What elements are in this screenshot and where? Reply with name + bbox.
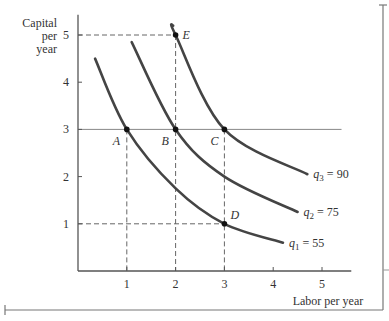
point-label-B: B: [162, 134, 170, 148]
point-label-C: C: [210, 134, 219, 148]
point-E: [173, 32, 179, 38]
labels: q1 = 55q2 = 75q3 = 90ABCDE: [112, 28, 349, 252]
x-tick-label: 2: [173, 277, 179, 291]
x-tick-label: 3: [221, 277, 227, 291]
isoquant-q2: [132, 42, 298, 212]
y-tick-label: 1: [63, 217, 69, 231]
y-axis-label: Capital: [22, 16, 57, 30]
isoquant-label-q1: q1 = 55: [289, 236, 324, 252]
y-axis-label: per: [42, 29, 57, 43]
y-tick-label: 3: [63, 122, 69, 136]
point-A: [124, 127, 130, 133]
y-tick-label: 2: [63, 170, 69, 184]
point-label-A: A: [112, 134, 121, 148]
x-axis-label: Labor per year: [293, 294, 364, 308]
point-B: [173, 127, 179, 133]
y-axis-label: year: [36, 42, 57, 56]
axes: 1234512345CapitalperyearLabor per year: [22, 15, 363, 308]
x-tick-label: 4: [270, 277, 276, 291]
frame: [5, 5, 389, 315]
isoquant-q3: [171, 24, 307, 174]
y-tick-label: 4: [63, 75, 69, 89]
isoquant-chart: 1234512345CapitalperyearLabor per year q…: [0, 0, 389, 321]
x-tick-label: 1: [124, 277, 130, 291]
point-label-D: D: [229, 208, 239, 222]
point-C: [222, 127, 228, 133]
isoquant-label-q2: q2 = 75: [304, 205, 339, 221]
point-D: [222, 221, 228, 227]
isoquant-label-q3: q3 = 90: [313, 167, 348, 183]
x-tick-label: 5: [319, 277, 325, 291]
point-label-E: E: [182, 28, 191, 42]
y-tick-label: 5: [63, 28, 69, 42]
